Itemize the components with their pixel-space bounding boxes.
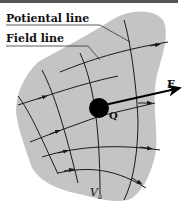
charge-q-marker: [89, 98, 109, 118]
potential-symbol: V: [90, 186, 98, 199]
potential-subscript: a: [98, 193, 102, 201]
charge-label: Q: [109, 110, 118, 121]
force-label: F: [167, 78, 175, 91]
field-line-label: Field line: [6, 32, 64, 45]
potential-va-label: Va: [90, 186, 102, 201]
potential-line-label: Potiental line: [6, 12, 89, 25]
